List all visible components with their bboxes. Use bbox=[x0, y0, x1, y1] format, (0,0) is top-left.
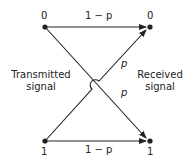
received-label: Received signal bbox=[132, 69, 187, 93]
rx1-label: 1 bbox=[147, 146, 153, 155]
top-edge-label: 1 − p bbox=[85, 10, 112, 22]
transmitted-line1: Transmitted bbox=[4, 69, 78, 81]
tx1-label: 1 bbox=[41, 146, 47, 155]
rx0-label: 0 bbox=[147, 10, 153, 22]
cross-down-label: p bbox=[121, 87, 127, 99]
node-tx1 bbox=[42, 138, 47, 143]
cross-up-label: p bbox=[121, 58, 127, 70]
node-rx0 bbox=[147, 24, 152, 29]
bottom-edge-label: 1 − p bbox=[85, 144, 112, 155]
received-line2: signal bbox=[132, 81, 187, 93]
transmitted-line2: signal bbox=[4, 81, 78, 93]
transmitted-label: Transmitted signal bbox=[4, 69, 78, 93]
received-line1: Received bbox=[132, 69, 187, 81]
node-rx1 bbox=[147, 138, 152, 143]
tx0-label: 0 bbox=[41, 10, 47, 22]
node-tx0 bbox=[42, 24, 47, 29]
